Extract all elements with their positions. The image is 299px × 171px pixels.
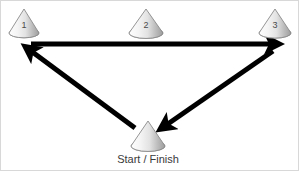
cone-3: 3 [259, 9, 291, 38]
cone-layer: 1 2 3 [9, 9, 291, 151]
cone-body-triangle [131, 121, 165, 151]
arrow-cone3-to-start [162, 51, 273, 128]
cone-start-finish [131, 121, 165, 151]
cone-number-label: 1 [21, 20, 26, 30]
cone-1: 1 [9, 9, 39, 38]
cone-course-diagram: 1 2 3 Start / Finish [0, 0, 299, 171]
start-finish-caption: Start / Finish [117, 153, 179, 165]
cone-2: 2 [129, 9, 163, 38]
arrow-layer [27, 44, 277, 128]
cone-number-label: 2 [143, 20, 148, 30]
diagram-canvas: 1 2 3 Start / Finish [1, 1, 299, 171]
cone-number-label: 3 [272, 20, 277, 30]
arrow-start-to-cone1 [27, 48, 135, 128]
